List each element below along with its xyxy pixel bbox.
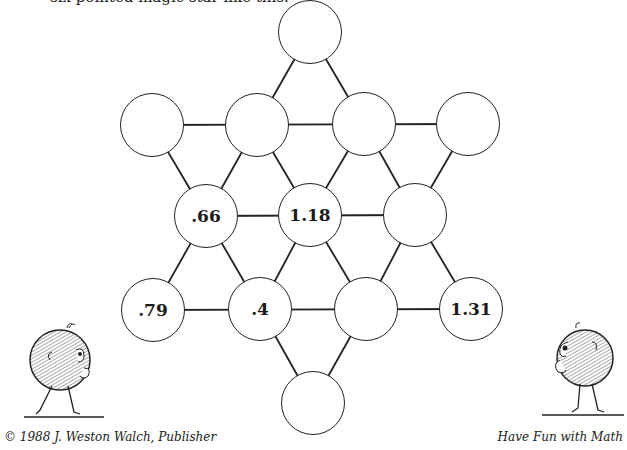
star-node-bottom[interactable] [281, 371, 345, 435]
mascot-left-illustration [20, 320, 110, 425]
star-node[interactable] [334, 277, 398, 341]
star-node[interactable]: 1.31 [439, 277, 503, 341]
star-node[interactable] [383, 183, 447, 247]
star-node[interactable]: 1.18 [278, 183, 342, 247]
series-title: Have Fun with Math [498, 430, 623, 444]
mascot-right-illustration [540, 320, 625, 425]
star-node[interactable] [225, 93, 289, 157]
star-node[interactable]: .66 [174, 184, 238, 248]
star-node[interactable] [332, 92, 396, 156]
star-node[interactable] [120, 93, 184, 157]
star-node-top[interactable] [278, 0, 342, 64]
star-node[interactable]: .4 [228, 277, 292, 341]
copyright-text: © 1988 J. Weston Walch, Publisher [4, 430, 216, 444]
star-node[interactable] [436, 92, 500, 156]
star-node[interactable]: .79 [121, 278, 185, 342]
